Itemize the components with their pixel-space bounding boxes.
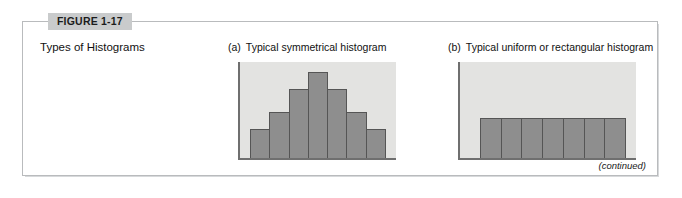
figure-container: FIGURE 1-17 Types of Histograms (a)Typic…	[0, 0, 682, 198]
histogram-bar	[542, 118, 564, 158]
continued-note: (continued)	[598, 160, 646, 171]
figure-number-tag: FIGURE 1-17	[48, 13, 132, 30]
histogram-bar	[308, 72, 328, 158]
histogram-bar	[269, 112, 289, 158]
histogram-a-y-axis	[238, 62, 240, 160]
histogram-b-plot	[458, 62, 636, 160]
histogram-bar	[289, 89, 309, 158]
histogram-bar	[346, 112, 366, 158]
panel-a-letter: (a)	[228, 41, 241, 53]
histogram-a-plot	[238, 62, 396, 160]
histogram-bar	[501, 118, 523, 158]
histogram-bar	[327, 89, 347, 158]
histogram-b-bars	[480, 62, 626, 158]
histogram-a-bars	[250, 62, 386, 158]
panel-a-title: (a)Typical symmetrical histogram	[228, 41, 386, 53]
histogram-bar	[366, 129, 386, 158]
histogram-bar	[604, 118, 626, 158]
histogram-bar	[250, 129, 270, 158]
histogram-bar	[563, 118, 585, 158]
panel-b-letter: (b)	[448, 41, 461, 53]
panel-b-label: Typical uniform or rectangular histogram	[466, 41, 653, 53]
histogram-bar	[584, 118, 606, 158]
panel-b-title: (b)Typical uniform or rectangular histog…	[448, 41, 653, 53]
panel-a-label: Typical symmetrical histogram	[246, 41, 387, 53]
histogram-a-x-axis	[238, 158, 396, 160]
histogram-bar	[521, 118, 543, 158]
figure-caption: Types of Histograms	[40, 41, 145, 53]
histogram-bar	[480, 118, 502, 158]
histogram-b-y-axis	[458, 62, 460, 160]
